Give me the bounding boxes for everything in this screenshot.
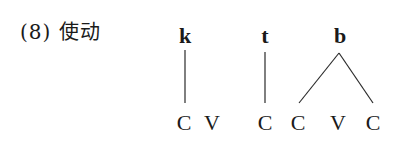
skeleton-slot-c: C: [291, 110, 306, 135]
skeleton-slot-v: V: [204, 110, 220, 135]
top-segment-k: k: [179, 23, 192, 48]
association-line-b-left: [299, 53, 339, 103]
association-line-b-right: [339, 53, 373, 103]
skeleton-slot-c: C: [258, 110, 273, 135]
skeleton-slot-c: C: [177, 110, 192, 135]
top-segment-t: t: [261, 23, 269, 48]
autosegmental-diagram: k t b C V C C V C: [0, 0, 405, 143]
skeleton-slot-v: V: [330, 110, 346, 135]
skeleton-slot-c: C: [366, 110, 381, 135]
top-segment-b: b: [334, 23, 346, 48]
